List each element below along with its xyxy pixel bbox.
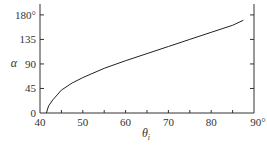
x-tick-label: 50 <box>77 116 89 128</box>
x-tick-label: 60 <box>120 116 132 128</box>
x-tick-label: 40 <box>35 116 47 128</box>
y-tick-label: 45 <box>25 82 37 94</box>
x-tick-label: 90° <box>250 116 265 128</box>
x-tick-label: 80 <box>206 116 218 128</box>
x-axis-label: θi <box>142 126 150 142</box>
x-tick-label: 70 <box>163 116 175 128</box>
y-tick-label: 180° <box>15 9 36 21</box>
chart: 04590135180° 405060708090° α θi <box>0 0 267 145</box>
y-axis-label: α <box>11 56 18 70</box>
data-line <box>46 20 243 113</box>
y-tick-label: 90 <box>25 58 37 70</box>
y-tick-label: 135 <box>20 33 37 45</box>
axes-frame <box>40 4 254 113</box>
